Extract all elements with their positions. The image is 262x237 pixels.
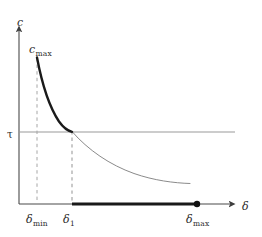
y-axis-label: c	[17, 13, 23, 29]
cost-curve-feasible-branch	[37, 58, 72, 132]
delta-max-label-subscript: max	[193, 219, 209, 228]
y-axis-label-base: c	[17, 16, 23, 29]
figure-canvas: c δ cmax τ δmin δ1 δmax	[0, 0, 262, 237]
tau-label-base: τ	[7, 128, 13, 140]
delta-min-label-base: δ	[26, 213, 33, 226]
c-max-label: cmax	[29, 40, 52, 56]
delta-1-label: δ1	[63, 210, 75, 226]
delta-max-label-base: δ	[186, 213, 193, 226]
delta-min-label-subscript: min	[33, 219, 48, 228]
delta-1-label-base: δ	[63, 213, 70, 226]
delta-max-endpoint-dot	[194, 201, 200, 207]
cost-curve-infeasible-branch	[72, 132, 190, 184]
x-axis-label: δ	[242, 197, 249, 213]
delta-max-label: δmax	[186, 210, 209, 226]
tau-label: τ	[7, 125, 13, 141]
x-axis-label-base: δ	[242, 200, 249, 213]
c-max-label-subscript: max	[35, 49, 51, 58]
cost-vs-delta-plot	[0, 0, 262, 237]
delta-min-label: δmin	[26, 210, 48, 226]
delta-1-label-subscript: 1	[70, 219, 75, 228]
